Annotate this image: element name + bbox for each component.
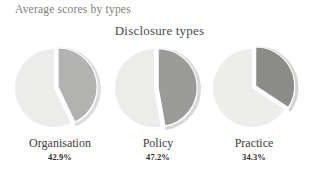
page-header-title: Average scores by types: [15, 3, 131, 15]
pie-labels-row: Organisation 42.9% Policy 47.2% Practice…: [0, 136, 311, 176]
pie-chart-practice: [206, 45, 306, 135]
pie-chart-policy: [108, 45, 208, 135]
pie-label-organisation: Organisation 42.9%: [10, 136, 110, 163]
pie-charts-row: [0, 45, 311, 135]
pie-chart-organisation: [8, 45, 108, 135]
pie-label-practice-name: Practice: [204, 136, 304, 151]
pie-label-policy: Policy 47.2%: [108, 136, 208, 163]
pie-chart-practice-svg: [206, 45, 306, 135]
pie-label-policy-value: 47.2%: [108, 151, 208, 163]
chart-title: Disclosure types: [0, 23, 311, 39]
chart-title-text: Disclosure types: [115, 23, 205, 39]
pie-label-practice: Practice 34.3%: [204, 136, 304, 163]
pie-label-policy-name: Policy: [108, 136, 208, 151]
pie-label-organisation-value: 42.9%: [10, 151, 110, 163]
pie-chart-policy-svg: [108, 45, 208, 135]
pie-label-practice-value: 34.3%: [204, 151, 304, 163]
pie-chart-organisation-svg: [8, 45, 108, 135]
pie-remainder-slice: [115, 49, 161, 127]
pie-label-organisation-name: Organisation: [10, 136, 110, 151]
